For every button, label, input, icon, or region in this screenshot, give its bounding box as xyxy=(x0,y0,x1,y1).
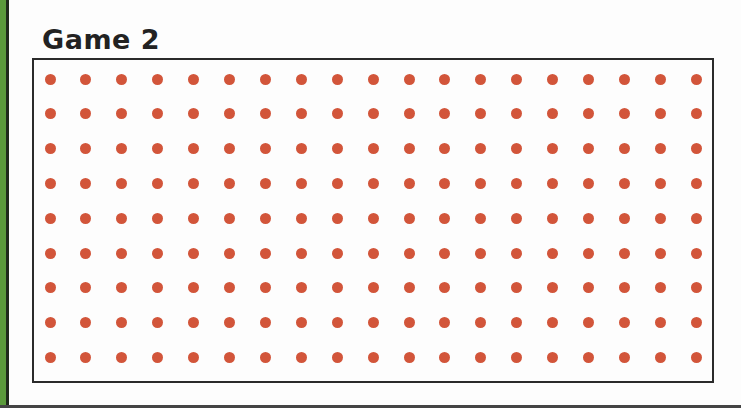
dot[interactable] xyxy=(691,352,702,363)
dot[interactable] xyxy=(152,178,163,189)
dot[interactable] xyxy=(404,248,415,259)
dot[interactable] xyxy=(224,352,235,363)
dot[interactable] xyxy=(332,352,343,363)
dot[interactable] xyxy=(475,74,486,85)
dot[interactable] xyxy=(368,143,379,154)
dot[interactable] xyxy=(188,213,199,224)
dot[interactable] xyxy=(296,178,307,189)
dot[interactable] xyxy=(260,213,271,224)
dot[interactable] xyxy=(547,74,558,85)
dot[interactable] xyxy=(45,317,56,328)
dot[interactable] xyxy=(404,213,415,224)
dot[interactable] xyxy=(691,108,702,119)
dot[interactable] xyxy=(583,178,594,189)
dot[interactable] xyxy=(332,282,343,293)
dot[interactable] xyxy=(404,108,415,119)
dot[interactable] xyxy=(45,282,56,293)
dot[interactable] xyxy=(188,74,199,85)
dot[interactable] xyxy=(45,143,56,154)
dot[interactable] xyxy=(332,248,343,259)
dot[interactable] xyxy=(619,178,630,189)
dot[interactable] xyxy=(45,108,56,119)
dot[interactable] xyxy=(332,213,343,224)
dot[interactable] xyxy=(691,213,702,224)
dot[interactable] xyxy=(296,317,307,328)
dot[interactable] xyxy=(404,317,415,328)
dot[interactable] xyxy=(368,108,379,119)
dot[interactable] xyxy=(116,74,127,85)
dot[interactable] xyxy=(511,213,522,224)
dot[interactable] xyxy=(260,248,271,259)
dot[interactable] xyxy=(224,178,235,189)
dot[interactable] xyxy=(583,74,594,85)
dot[interactable] xyxy=(475,248,486,259)
dot[interactable] xyxy=(547,213,558,224)
dot[interactable] xyxy=(260,317,271,328)
dot[interactable] xyxy=(511,74,522,85)
dot[interactable] xyxy=(368,248,379,259)
dot[interactable] xyxy=(116,213,127,224)
dot[interactable] xyxy=(547,178,558,189)
dot[interactable] xyxy=(439,74,450,85)
dot[interactable] xyxy=(691,248,702,259)
dot[interactable] xyxy=(152,248,163,259)
dot[interactable] xyxy=(619,248,630,259)
dot[interactable] xyxy=(511,248,522,259)
dot[interactable] xyxy=(583,352,594,363)
dot[interactable] xyxy=(45,74,56,85)
dot[interactable] xyxy=(439,248,450,259)
dot[interactable] xyxy=(547,248,558,259)
dot[interactable] xyxy=(296,248,307,259)
dot[interactable] xyxy=(188,248,199,259)
dot[interactable] xyxy=(619,74,630,85)
dot[interactable] xyxy=(152,74,163,85)
dot[interactable] xyxy=(691,317,702,328)
dot[interactable] xyxy=(691,143,702,154)
dot[interactable] xyxy=(296,143,307,154)
dot[interactable] xyxy=(80,248,91,259)
dot[interactable] xyxy=(691,74,702,85)
dot[interactable] xyxy=(404,282,415,293)
dot[interactable] xyxy=(45,248,56,259)
dot[interactable] xyxy=(691,178,702,189)
dot[interactable] xyxy=(332,178,343,189)
dot[interactable] xyxy=(404,352,415,363)
dot[interactable] xyxy=(583,213,594,224)
dot[interactable] xyxy=(368,352,379,363)
dot[interactable] xyxy=(619,213,630,224)
dot[interactable] xyxy=(296,352,307,363)
dot[interactable] xyxy=(152,352,163,363)
dot[interactable] xyxy=(655,248,666,259)
dot[interactable] xyxy=(404,143,415,154)
dot[interactable] xyxy=(368,213,379,224)
dot[interactable] xyxy=(547,352,558,363)
dot[interactable] xyxy=(188,352,199,363)
dot[interactable] xyxy=(332,108,343,119)
dot[interactable] xyxy=(260,178,271,189)
dot[interactable] xyxy=(224,248,235,259)
dot[interactable] xyxy=(224,213,235,224)
dot[interactable] xyxy=(404,178,415,189)
dot[interactable] xyxy=(368,178,379,189)
dot[interactable] xyxy=(332,74,343,85)
dot[interactable] xyxy=(332,143,343,154)
dot[interactable] xyxy=(260,74,271,85)
dot[interactable] xyxy=(296,74,307,85)
dot[interactable] xyxy=(296,213,307,224)
dot[interactable] xyxy=(368,74,379,85)
dot[interactable] xyxy=(45,213,56,224)
dot[interactable] xyxy=(655,74,666,85)
dot[interactable] xyxy=(619,352,630,363)
dot[interactable] xyxy=(691,282,702,293)
dot[interactable] xyxy=(655,352,666,363)
dot[interactable] xyxy=(45,352,56,363)
dot[interactable] xyxy=(655,213,666,224)
dot[interactable] xyxy=(116,248,127,259)
dot[interactable] xyxy=(619,143,630,154)
dot[interactable] xyxy=(188,178,199,189)
dot[interactable] xyxy=(655,143,666,154)
dot[interactable] xyxy=(45,178,56,189)
dot[interactable] xyxy=(404,74,415,85)
dot[interactable] xyxy=(655,317,666,328)
dot[interactable] xyxy=(152,213,163,224)
